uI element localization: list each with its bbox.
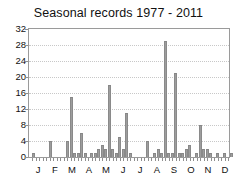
bar [125,113,128,157]
x-tick-mark [95,158,96,161]
bar [129,153,132,157]
x-tick-mark [228,158,229,161]
x-tick-mark [81,158,82,161]
bar [209,153,212,157]
x-tick-mark [225,158,226,161]
x-tick-mark [46,158,47,161]
x-tick-mark [67,158,68,161]
x-tick-mark [32,158,33,161]
y-tick-label: 16 [0,88,26,98]
x-tick-mark [78,158,79,161]
bar [146,141,149,157]
x-month-label: D [218,164,232,175]
x-month-label: J [116,164,130,175]
x-tick-mark [120,158,121,161]
x-tick-mark [64,158,65,161]
x-axis-tickmarks [28,158,230,162]
x-tick-mark [123,158,124,161]
x-axis-month-labels: JFMAMJJASOND [28,164,230,180]
x-tick-mark [221,158,222,161]
x-month-label: A [150,164,164,175]
bar [32,153,35,157]
x-tick-mark [60,158,61,161]
x-tick-mark [116,158,117,161]
x-tick-mark [92,158,93,161]
x-tick-mark [109,158,110,161]
x-tick-mark [74,158,75,161]
x-tick-mark [144,158,145,161]
x-tick-mark [193,158,194,161]
x-month-label: O [184,164,198,175]
x-tick-mark [130,158,131,161]
x-tick-mark [71,158,72,161]
x-tick-mark [99,158,100,161]
x-month-label: M [99,164,113,175]
x-tick-mark [190,158,191,161]
x-tick-mark [158,158,159,161]
bar [230,153,233,157]
x-tick-mark [57,158,58,161]
x-tick-mark [148,158,149,161]
x-tick-mark [106,158,107,161]
x-tick-mark [162,158,163,161]
x-tick-mark [127,158,128,161]
x-tick-mark [113,158,114,161]
x-tick-mark [36,158,37,161]
bar [188,145,191,157]
y-tick-label: 32 [0,24,26,34]
x-tick-mark [141,158,142,161]
bar [164,41,167,157]
y-tick-label: 28 [0,40,26,50]
x-month-label: M [65,164,79,175]
bar [174,73,177,157]
y-tick-label: 24 [0,56,26,66]
x-tick-mark [53,158,54,161]
y-axis-labels: 048121620242832 [0,28,26,158]
bar [70,97,73,157]
bar [108,85,111,157]
x-tick-mark [200,158,201,161]
x-tick-mark [214,158,215,161]
x-tick-mark [39,158,40,161]
x-tick-mark [211,158,212,161]
x-tick-mark [165,158,166,161]
x-tick-mark [50,158,51,161]
x-tick-mark [43,158,44,161]
x-tick-mark [134,158,135,161]
x-month-label: J [133,164,147,175]
x-tick-mark [204,158,205,161]
bars-layer [29,29,229,157]
plot-area [28,28,230,158]
x-month-label: J [31,164,45,175]
y-tick-label: 12 [0,104,26,114]
x-month-label: S [167,164,181,175]
x-tick-mark [218,158,219,161]
x-tick-mark [155,158,156,161]
bar [216,153,219,157]
x-tick-mark [172,158,173,161]
x-tick-mark [183,158,184,161]
chart-title: Seasonal records 1977 - 2011 [0,6,237,20]
y-tick-label: 20 [0,72,26,82]
x-tick-mark [186,158,187,161]
x-tick-mark [207,158,208,161]
x-tick-mark [169,158,170,161]
x-tick-mark [151,158,152,161]
x-tick-mark [137,158,138,161]
x-month-label: F [48,164,62,175]
y-tick-label: 4 [0,136,26,146]
x-tick-mark [179,158,180,161]
y-tick-label: 8 [0,120,26,130]
x-month-label: A [82,164,96,175]
x-tick-mark [176,158,177,161]
bar [84,153,87,157]
x-month-label: N [201,164,215,175]
x-tick-mark [197,158,198,161]
x-tick-mark [85,158,86,161]
bar [49,141,52,157]
seasonal-records-bar-chart: Seasonal records 1977 - 2011 04812162024… [0,0,237,188]
x-tick-mark [88,158,89,161]
bar [223,153,226,157]
y-tick-label: 0 [0,152,26,162]
x-tick-mark [102,158,103,161]
